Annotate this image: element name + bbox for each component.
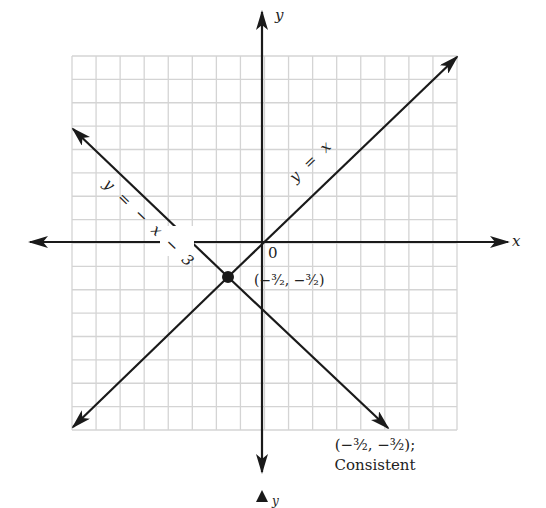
caption-classification: Consistent [320, 456, 430, 474]
next-figure-axis-label: y [272, 494, 279, 508]
x-axis-label: x [512, 232, 520, 250]
caption: (−³⁄₂, −³⁄₂); Consistent [320, 436, 430, 474]
y-axis-label: y [275, 6, 283, 24]
intersection-point [222, 271, 234, 283]
caption-solution: (−³⁄₂, −³⁄₂); [320, 436, 430, 454]
intersection-label: (−³⁄₂, −³⁄₂) [254, 272, 324, 288]
origin-label: 0 [268, 244, 278, 262]
